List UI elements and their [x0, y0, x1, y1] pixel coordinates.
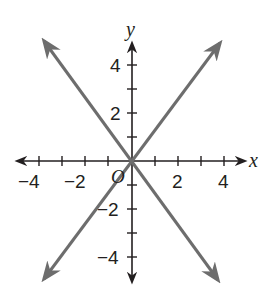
x-axis-label: x — [248, 149, 258, 171]
origin-label: O — [111, 166, 125, 187]
x-tick-label-neg2: −2 — [64, 171, 86, 192]
x-tick-label-pos2: 2 — [172, 171, 183, 192]
y-tick-label-pos4: 4 — [110, 55, 121, 76]
y-tick-label-neg2: −2 — [97, 199, 119, 220]
y-tick-label-neg4: −4 — [97, 247, 119, 268]
y-tick-label-pos2: 2 — [110, 103, 121, 124]
x-tick-label-neg4: −4 — [18, 171, 40, 192]
coordinate-plane: x y O −4 −2 2 4 4 2 −2 −4 — [0, 0, 269, 295]
y-axis-label: y — [124, 18, 135, 41]
x-tick-label-pos4: 4 — [218, 171, 229, 192]
